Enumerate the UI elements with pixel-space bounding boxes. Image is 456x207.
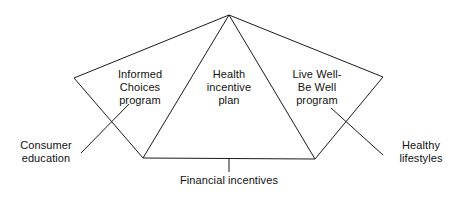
label-health-incentive-plan: Health incentive plan [192,68,266,108]
callout-leader-right [331,108,383,155]
label-financial-incentives: Financial incentives [164,174,294,187]
label-healthy-lifestyles: Healthy lifestyles [388,139,454,165]
label-live-well-be-well-program: Live Well- Be Well program [281,68,353,108]
label-informed-choices-program: Informed Choices program [104,68,176,108]
label-consumer-education: Consumer education [8,139,84,165]
callout-leader-left [81,104,129,153]
diagram-canvas: Informed Choices program Health incentiv… [0,0,456,207]
